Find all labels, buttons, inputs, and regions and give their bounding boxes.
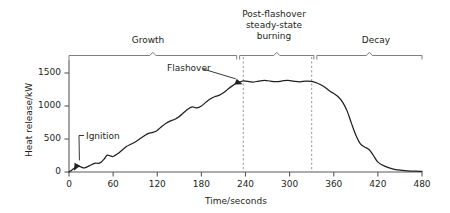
y-tick-label: 0 [55,166,61,177]
annotation-label-flashover: Flashover [167,63,211,74]
phase-label-decay: Decay [362,35,390,46]
bracket-decay [317,52,422,59]
annotation-label-ignition: Ignition [86,131,120,142]
x-tick-label: 60 [107,179,118,190]
x-tick-label: 0 [66,179,72,190]
phase-label-post-flashover-line2: steady-state [242,20,306,31]
x-tick-label: 180 [193,179,210,190]
phase-label-growth: Growth [132,35,165,46]
phase-label-post-flashover: Post-flashover steady-state burning [242,9,306,42]
fire-heat-release-chart: Heat release/kW Time/seconds 05001000150… [0,0,450,213]
heat-release-curve [69,80,422,172]
x-axis-ticks [69,172,422,177]
annotation-leaders [74,69,243,171]
y-axis-ticks [65,73,70,172]
y-tick-label: 500 [44,133,61,144]
x-axis-title: Time/seconds [205,196,267,207]
y-tick-label: 1500 [38,67,61,78]
ignition-leader-line [79,136,84,161]
bracket-post-flashover [240,52,314,59]
x-tick-label: 420 [369,179,386,190]
x-tick-label: 300 [281,179,298,190]
x-tick-label: 240 [237,179,254,190]
x-tick-label: 480 [413,179,430,190]
phase-divider-lines [243,57,311,172]
phase-bracket-group [69,52,422,59]
phase-label-post-flashover-line3: burning [242,31,306,42]
y-axis-title: Heat release/kW [24,82,34,156]
bracket-growth [69,52,237,59]
x-tick-label: 120 [149,179,166,190]
phase-label-post-flashover-line1: Post-flashover [242,9,306,20]
x-tick-label: 360 [325,179,342,190]
y-tick-label: 1000 [38,100,61,111]
